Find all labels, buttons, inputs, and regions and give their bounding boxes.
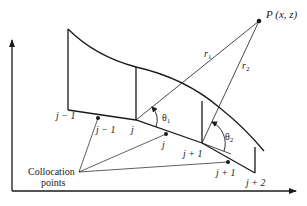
node-label-j-plus-1: j + 1 bbox=[181, 148, 203, 159]
distance-rays bbox=[136, 21, 259, 154]
collocation-label-j-plus-1: j + 1 bbox=[214, 167, 236, 178]
collocation-point-j-plus-1 bbox=[226, 160, 230, 164]
node-label-j-minus-1: j − 1 bbox=[54, 110, 76, 121]
node-label-j: j bbox=[129, 124, 134, 135]
collocation-label-j: j bbox=[160, 139, 165, 150]
theta1-arc bbox=[152, 107, 157, 127]
ray-r2 bbox=[202, 21, 259, 143]
body-geometry bbox=[68, 29, 264, 173]
theta2-arc bbox=[212, 122, 225, 151]
collocation-caption-line2: points bbox=[41, 177, 66, 188]
panel-diagram: P (x, z) r1 r2 θ1 θ2 j − 1 j j + 1 j + 2… bbox=[0, 0, 307, 206]
collocation-caption-line1: Collocation bbox=[28, 166, 75, 177]
points bbox=[96, 19, 261, 164]
collocation-point-j-minus-1 bbox=[96, 116, 100, 120]
r1-label: r1 bbox=[204, 48, 212, 61]
theta2-label: θ2 bbox=[225, 131, 234, 144]
node-label-j-plus-2: j + 2 bbox=[244, 177, 266, 188]
ray-r1 bbox=[136, 21, 259, 120]
panel-extension-j-plus-1 bbox=[202, 143, 231, 154]
collocation-point-j bbox=[164, 132, 168, 136]
theta1-label: θ1 bbox=[162, 112, 171, 125]
point-P-label: P (x, z) bbox=[265, 8, 298, 21]
r2-label: r2 bbox=[242, 60, 250, 73]
collocation-label-j-minus-1: j − 1 bbox=[94, 124, 116, 135]
point-P bbox=[257, 19, 262, 24]
